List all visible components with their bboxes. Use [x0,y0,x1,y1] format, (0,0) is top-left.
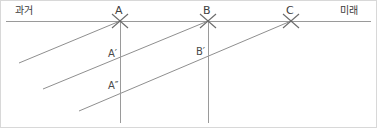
axis-label-past: 과거 [15,5,33,17]
timeline-diagram: 과거 미래 A B C A′ B′ A″ [0,0,377,128]
diagonal-to-b [43,21,208,89]
point-label-b: B [203,5,211,17]
diagonal-to-c [79,21,291,111]
point-label-a: A [115,5,123,17]
point-label-c: C [286,5,294,17]
vertical-lines-group [120,21,208,123]
intersection-label-a-double-prime: A″ [108,80,119,91]
diagonal-to-a [19,21,120,63]
diagonal-lines-group [19,21,291,111]
diagram-canvas [1,1,377,128]
axis-label-future: 미래 [340,5,358,17]
intersection-label-a-prime: A′ [108,48,117,59]
intersection-label-b-prime: B′ [196,46,205,57]
